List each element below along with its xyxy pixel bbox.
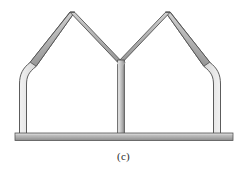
right-inner-rafter [118,12,170,62]
left-knee-haunch [30,12,74,66]
left-outer-column [20,12,75,134]
left-gable-member [20,12,75,134]
right-gable-member [165,12,220,134]
right-inner-rafter-group [118,12,170,62]
right-knee-haunch [166,12,210,66]
figure-caption: (c) [0,150,247,162]
center-column-group [116,60,126,134]
right-outer-column [165,12,220,134]
ground-beam-group [15,133,233,141]
center-column [118,60,125,134]
structural-frame-diagram [0,0,247,150]
left-inner-rafter-group [70,12,122,62]
figure-container: (c) [0,0,247,175]
left-inner-rafter [70,12,122,62]
